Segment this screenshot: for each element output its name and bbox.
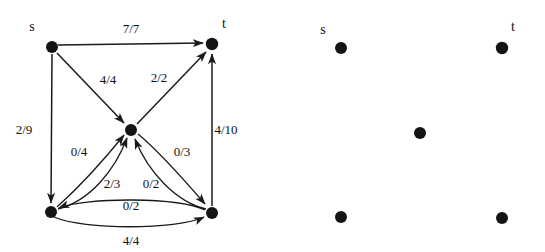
right-panel-node-labels: s t: [320, 19, 515, 37]
node-t-left[interactable]: [206, 38, 218, 50]
node-center-right[interactable]: [414, 127, 426, 139]
edge-bl-c-lower: [58, 138, 127, 209]
node-label-t-right: t: [511, 19, 515, 34]
edge-label-s-t: 7/7: [123, 21, 140, 36]
node-s-left[interactable]: [46, 41, 58, 53]
edge-label-br-c: 0/2: [143, 176, 160, 191]
edge-label-s-bl: 2/9: [16, 122, 33, 137]
node-s-right[interactable]: [335, 42, 347, 54]
right-panel-nodes: [335, 42, 508, 224]
edge-label-br-t: 4/10: [214, 122, 237, 137]
edge-label-bl-br-lower: 4/4: [123, 233, 140, 248]
node-label-s-right: s: [320, 22, 325, 37]
edge-label-s-c: 4/4: [100, 72, 117, 87]
edge-s-t: [58, 43, 203, 45]
edge-label-c-t: 2/2: [151, 70, 168, 85]
edge-bl-c-upper: [57, 135, 124, 207]
node-label-s-left: s: [29, 19, 34, 34]
edge-c-t: [137, 52, 206, 124]
edge-c-br: [138, 134, 205, 204]
edge-s-c: [57, 53, 124, 123]
edge-label-bl-c-lower: 2/3: [104, 176, 121, 191]
edge-br-c: [135, 139, 206, 209]
edge-label-bl-c-upper: 0/4: [71, 144, 88, 159]
node-t-right[interactable]: [496, 42, 508, 54]
edge-bl-br-lower: [54, 217, 204, 227]
figure-root: 7/7 4/4 2/9 2/2 4/10 0/4 2/3 0/2 0/3 0/2…: [0, 0, 545, 252]
edge-s-bl: [51, 54, 52, 203]
node-bottom-left-left[interactable]: [45, 206, 57, 218]
left-panel-nodes: [45, 38, 218, 219]
node-bottom-right-right[interactable]: [496, 212, 508, 224]
node-bottom-right-left[interactable]: [206, 207, 218, 219]
edge-label-c-br: 0/3: [174, 144, 191, 159]
node-center-left[interactable]: [125, 124, 137, 136]
flow-network-diagram: 7/7 4/4 2/9 2/2 4/10 0/4 2/3 0/2 0/3 0/2…: [0, 0, 545, 252]
edge-label-br-bl-upper: 0/2: [123, 198, 140, 213]
node-bottom-left-right[interactable]: [335, 211, 347, 223]
node-label-t-left: t: [222, 16, 226, 31]
